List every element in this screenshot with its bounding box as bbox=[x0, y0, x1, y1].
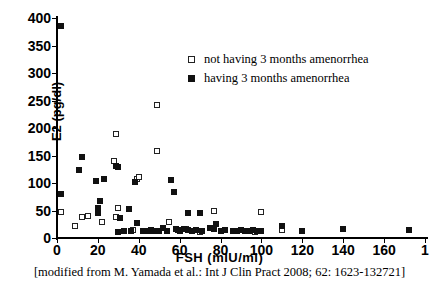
y-axis-tick bbox=[52, 73, 57, 74]
data-point bbox=[58, 209, 64, 215]
y-axis-tick bbox=[52, 46, 57, 47]
data-point bbox=[299, 228, 305, 234]
data-point bbox=[168, 177, 174, 183]
data-point bbox=[115, 164, 121, 170]
data-point bbox=[101, 176, 107, 182]
data-point bbox=[85, 213, 91, 219]
data-point bbox=[199, 228, 205, 234]
legend-entry-label: not having 3 months amenorrhea bbox=[204, 52, 369, 67]
y-axis-tick-label: 50 bbox=[35, 204, 51, 218]
y-axis-tick-label: 100 bbox=[28, 176, 51, 190]
legend: not having 3 months amenorrheahaving 3 m… bbox=[188, 50, 369, 88]
data-point bbox=[222, 227, 228, 233]
y-axis-tick bbox=[52, 128, 57, 129]
legend-entry-label: having 3 months amenorrhea bbox=[204, 71, 349, 86]
data-point bbox=[171, 189, 177, 195]
filled-square-icon bbox=[188, 75, 195, 82]
data-point bbox=[79, 214, 85, 220]
data-point bbox=[197, 210, 203, 216]
y-axis-tick bbox=[52, 211, 57, 212]
open-square-icon bbox=[188, 56, 195, 63]
x-axis-title: FSH (mIU/ml) bbox=[0, 250, 439, 265]
data-point bbox=[213, 221, 219, 227]
data-point bbox=[132, 179, 138, 185]
data-point bbox=[72, 223, 78, 229]
y-axis-tick-label: 300 bbox=[28, 66, 51, 80]
data-point bbox=[211, 208, 217, 214]
y-axis-tick-label: 350 bbox=[28, 39, 51, 53]
data-point bbox=[95, 210, 101, 216]
data-point bbox=[193, 227, 199, 233]
data-point bbox=[93, 178, 99, 184]
data-point bbox=[97, 198, 103, 204]
y-axis-tick-label: 150 bbox=[28, 149, 51, 163]
data-point bbox=[115, 205, 121, 211]
y-axis-tick bbox=[52, 156, 57, 157]
data-point bbox=[79, 154, 85, 160]
data-point bbox=[185, 210, 191, 216]
y-axis-tick-label: 400 bbox=[28, 11, 51, 25]
data-point bbox=[150, 228, 156, 234]
y-axis-tick bbox=[52, 183, 57, 184]
legend-entry: not having 3 months amenorrhea bbox=[188, 50, 369, 69]
data-point bbox=[164, 228, 170, 234]
data-point bbox=[258, 228, 264, 234]
data-point bbox=[115, 229, 121, 235]
data-point bbox=[117, 215, 123, 221]
data-point bbox=[211, 226, 217, 232]
data-point bbox=[340, 226, 346, 232]
data-point bbox=[406, 227, 412, 233]
data-point bbox=[279, 223, 285, 229]
data-point bbox=[258, 209, 264, 215]
data-point bbox=[134, 220, 140, 226]
scatter-plot-figure: E2 (pg/dl) 05010015020025030035040002040… bbox=[0, 0, 439, 288]
y-axis-tick bbox=[52, 18, 57, 19]
y-axis-tick-label: 0 bbox=[43, 231, 51, 245]
data-point bbox=[58, 191, 64, 197]
data-point bbox=[154, 148, 160, 154]
data-point bbox=[113, 131, 119, 137]
data-point bbox=[58, 23, 64, 29]
data-point bbox=[128, 228, 134, 234]
data-point bbox=[121, 228, 127, 234]
data-point bbox=[154, 102, 160, 108]
data-point bbox=[76, 167, 82, 173]
data-point bbox=[99, 219, 105, 225]
data-point bbox=[166, 219, 172, 225]
legend-entry: having 3 months amenorrhea bbox=[188, 69, 369, 88]
data-point bbox=[126, 206, 132, 212]
y-axis-tick-label: 200 bbox=[28, 121, 51, 135]
y-axis-tick-label: 250 bbox=[28, 94, 51, 108]
figure-caption: [modified from M. Yamada et al.: Int J C… bbox=[0, 265, 439, 280]
y-axis-tick bbox=[52, 101, 57, 102]
